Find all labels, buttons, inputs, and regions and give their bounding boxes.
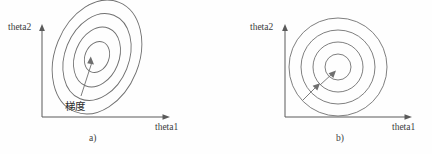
panel-a-gradient-arrow <box>81 57 94 97</box>
panel-b-caption: b) <box>336 133 344 144</box>
panel-b-contour-4 <box>289 18 387 116</box>
panel-a-contour-3 <box>50 3 143 110</box>
panel-b-y-axis-label: theta2 <box>250 22 273 32</box>
panel-a-contour-4 <box>36 0 158 127</box>
panel-a-x-axis-arrowhead <box>163 114 171 120</box>
panel-a-x-axis-label: theta1 <box>155 122 178 132</box>
panel-a-caption: a) <box>89 133 96 144</box>
panel-a-y-axis-arrowhead <box>39 24 45 31</box>
panel-b-contour-1 <box>325 54 351 80</box>
panel-b-x-axis-label: theta1 <box>392 122 415 132</box>
panel-b: theta2 theta1 b) <box>250 18 415 144</box>
figure-canvas: theta2 theta1 梯度 a) <box>0 0 432 154</box>
panel-b-contours <box>289 18 387 116</box>
panel-b-gradient-arrows <box>303 71 336 101</box>
gradient-descent-figure: theta2 theta1 梯度 a) <box>0 0 432 154</box>
panel-b-contour-3 <box>301 30 375 104</box>
panel-a-y-axis-label: theta2 <box>8 22 31 32</box>
panel-b-y-axis-arrowhead <box>282 24 288 31</box>
panel-a-contours <box>36 0 158 127</box>
panel-a-contour-1 <box>80 38 114 77</box>
panel-a: theta2 theta1 梯度 a) <box>8 0 178 144</box>
panel-a-gradient-annotation: 梯度 <box>65 100 86 112</box>
panel-b-x-axis-arrowhead <box>405 114 413 120</box>
